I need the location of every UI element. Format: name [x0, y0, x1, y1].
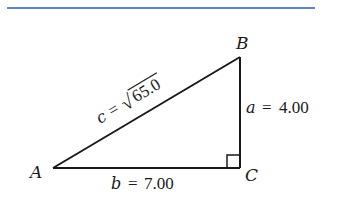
- side-b-eq: =: [128, 174, 138, 193]
- vertex-label-c: C: [245, 165, 258, 185]
- side-a-var: a: [246, 98, 256, 117]
- triangle: [53, 57, 240, 168]
- vertex-label-b: B: [235, 33, 249, 53]
- side-c-eq: =: [104, 99, 122, 120]
- side-b-label: b = 7.00: [111, 174, 174, 193]
- side-a-eq: =: [262, 98, 272, 117]
- vertex-label-a: A: [28, 162, 42, 182]
- side-a-value: 4.00: [279, 98, 309, 117]
- side-b-value: 7.00: [144, 174, 174, 193]
- side-a-label: a = 4.00: [246, 98, 309, 117]
- side-c-label: c = √ 65.0: [92, 72, 168, 129]
- right-triangle-diagram: B A C a = 4.00 b = 7.00 c = √ 65.0: [0, 0, 344, 213]
- side-b-var: b: [111, 174, 121, 193]
- right-angle-marker: [227, 155, 240, 168]
- side-c-hypotenuse: [53, 57, 240, 168]
- side-c-radicand: 65.0: [128, 74, 163, 106]
